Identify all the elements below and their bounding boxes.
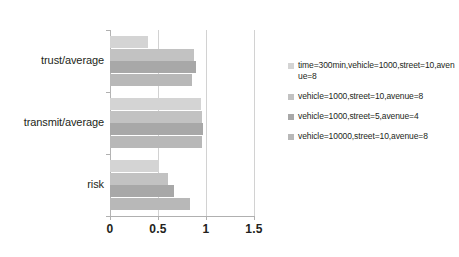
x-axis-tick (206, 216, 207, 220)
y-axis-tick (106, 92, 110, 93)
x-axis-tick (110, 216, 111, 220)
bar (110, 123, 203, 135)
legend-label: vehicle=1000,street=10,avenue=8 (298, 91, 423, 102)
bar (110, 49, 194, 61)
legend-swatch-icon (288, 63, 294, 69)
x-axis-tick-label: 0.5 (138, 222, 178, 236)
x-axis-tick-label: 1 (186, 222, 226, 236)
x-axis-tick-label: 0 (90, 222, 130, 236)
bar (110, 198, 190, 210)
chart-legend: time=300min,vehicle=1000,street=10,avenu… (288, 60, 456, 151)
legend-item[interactable]: time=300min,vehicle=1000,street=10,avenu… (288, 60, 456, 82)
legend-swatch-icon (288, 134, 294, 140)
y-axis-label: risk (87, 178, 104, 190)
legend-swatch-icon (288, 114, 294, 120)
legend-item[interactable]: vehicle=10000,street=10,avenue=8 (288, 131, 456, 142)
y-axis-label: transmit/average (24, 116, 104, 128)
y-axis-tick (106, 30, 110, 31)
x-axis-tick-label: 1.5 (234, 222, 274, 236)
y-axis-label: trust/average (41, 54, 104, 66)
bar (110, 111, 202, 123)
bar (110, 160, 159, 172)
bar-chart-figure: trust/averagetransmit/averagerisk 00.511… (0, 0, 459, 257)
bar (110, 74, 192, 86)
legend-label: vehicle=1000,street=5,avenue=4 (298, 111, 419, 122)
bar (110, 136, 202, 148)
gridline-1 (206, 30, 207, 216)
gridline-1.5 (254, 30, 255, 216)
y-axis-tick (106, 216, 110, 217)
plot-area (110, 30, 254, 216)
y-axis-tick (106, 154, 110, 155)
bar (110, 61, 196, 73)
legend-item[interactable]: vehicle=1000,street=5,avenue=4 (288, 111, 456, 122)
bar (110, 173, 168, 185)
x-axis-tick (254, 216, 255, 220)
bar (110, 98, 201, 110)
x-axis-line (110, 216, 255, 217)
x-axis-tick (158, 216, 159, 220)
bar (110, 36, 148, 48)
legend-item[interactable]: vehicle=1000,street=10,avenue=8 (288, 91, 456, 102)
legend-swatch-icon (288, 94, 294, 100)
bar (110, 185, 174, 197)
legend-label: time=300min,vehicle=1000,street=10,avenu… (298, 60, 456, 82)
y-axis-category-labels: trust/averagetransmit/averagerisk (0, 30, 104, 216)
legend-label: vehicle=10000,street=10,avenue=8 (298, 131, 428, 142)
